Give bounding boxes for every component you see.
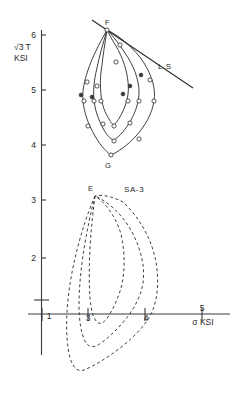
- plot-figure: 6 5 4 3 2 1 3 4 5 √3 T KSI σ KSI L.S: [0, 0, 240, 408]
- plot-svg: 6 5 4 3 2 1 3 4 5 √3 T KSI σ KSI L.S: [0, 0, 240, 408]
- y-tick-label-6: 6: [31, 30, 36, 40]
- y-axis-title-line2: KSI: [14, 53, 28, 63]
- dashed-loci-group: [67, 195, 158, 370]
- data-point-middle-lower-left: [101, 122, 105, 126]
- x-tick-label-3: 3: [86, 313, 91, 323]
- y-tick-label-5: 5: [31, 85, 36, 95]
- y-tick-label-4: 4: [31, 140, 36, 150]
- y-tick-label-2: 2: [31, 253, 36, 263]
- solid-loci-group: [83, 30, 155, 155]
- cusp-label-g: G: [105, 161, 111, 170]
- data-point-outer-upper-left: [85, 80, 89, 84]
- data-point-middle-right: [137, 99, 141, 103]
- data-point-apex-f: [105, 28, 109, 32]
- upper-point-labels-group: F G: [105, 18, 111, 170]
- y-tick-label-3: 3: [31, 195, 36, 205]
- data-point-outer-left: [82, 99, 86, 103]
- apex-label-f: F: [105, 18, 110, 27]
- solid-loci-markers-group: [82, 28, 156, 157]
- data-point-inner-bottom: [112, 124, 116, 128]
- data-point-inner-right: [126, 99, 130, 103]
- solid-locus-inner: [100, 30, 128, 125]
- dashed-locus-middle: [79, 196, 144, 347]
- data-point-middle-upper: [118, 43, 122, 47]
- series-title-sa3: SA-3: [124, 185, 144, 194]
- dashed-locus-inner: [89, 196, 124, 323]
- data-point-outer-bottom: [109, 153, 113, 157]
- data-point-middle-bottom: [112, 139, 116, 143]
- data-point-outer-upper-right: [148, 78, 152, 82]
- x-tick-label-5: 5: [200, 303, 205, 313]
- filled-point-5: [121, 92, 125, 96]
- data-point-middle-lower-right: [128, 121, 132, 125]
- data-point-middle-upper-left: [95, 84, 99, 88]
- data-point-outer-lower-right: [137, 137, 141, 141]
- x-tick-label-4: 4: [144, 313, 149, 323]
- dashed-locus-outer: [67, 195, 158, 370]
- dashed-apex-label-e: E: [88, 184, 93, 193]
- x-axis-title: σ KSI: [192, 317, 213, 327]
- data-point-middle-left: [92, 99, 96, 103]
- limit-surface-label: L.S: [158, 62, 172, 71]
- filled-point-2: [90, 95, 94, 99]
- filled-points-group: [79, 73, 143, 99]
- filled-point-1: [79, 93, 83, 97]
- axis-titles-group: √3 T KSI σ KSI: [14, 42, 214, 327]
- data-point-outer-lower-left: [86, 124, 90, 128]
- data-point-outer-right: [152, 99, 156, 103]
- data-point-inner-left: [99, 99, 103, 103]
- filled-point-3: [128, 84, 132, 88]
- filled-point-4: [139, 73, 143, 77]
- x-tick-label-1: 1: [47, 311, 52, 321]
- data-point-inner-upper: [114, 60, 118, 64]
- tick-labels-group: 6 5 4 3 2 1 3 4 5: [31, 30, 204, 323]
- y-axis-title-line1: √3 T: [14, 42, 31, 52]
